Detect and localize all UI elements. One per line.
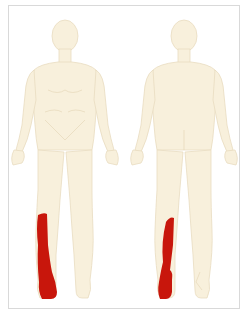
back-view-body [131,20,238,298]
front-view-body [12,20,119,298]
body-diagram [0,0,249,314]
